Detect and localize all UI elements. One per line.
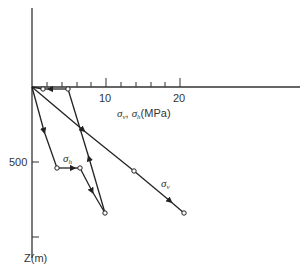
series-sigma-h	[32, 87, 105, 213]
y-tick-label-500: 500	[9, 156, 27, 168]
x-ticks	[47, 78, 180, 87]
x-axis-label: σv, σh(MPa)	[117, 107, 171, 121]
y-axis-label: Z(m)	[24, 252, 47, 264]
series-sigma-v	[32, 87, 184, 213]
x-tick-label-10: 10	[99, 92, 111, 104]
x-tick-label-20: 20	[173, 92, 185, 104]
sigma-h-label: σh	[63, 152, 72, 166]
stress-depth-diagram: 10 20 500 σv, σh(MPa) Z(m)	[0, 0, 305, 275]
sigma-v-label: σv	[161, 177, 170, 191]
